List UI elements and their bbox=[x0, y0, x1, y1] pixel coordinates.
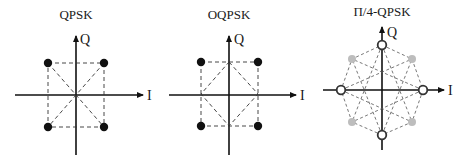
oqpsk-diagram: OQPSK I Q bbox=[169, 7, 305, 155]
oqpsk-q-label: Q bbox=[234, 32, 244, 47]
oqpsk-point-bottom-right bbox=[254, 122, 262, 130]
pi4-qpsk-point-bottom-right bbox=[408, 118, 416, 126]
qpsk-i-label: I bbox=[147, 88, 152, 103]
oqpsk-point-top-right bbox=[254, 58, 262, 66]
qpsk-point-top-right bbox=[100, 59, 108, 67]
qpsk-point-top-left bbox=[44, 59, 52, 67]
pi4-qpsk-i-label: I bbox=[448, 83, 453, 98]
pi4-qpsk-point-left bbox=[337, 86, 346, 95]
pi4-qpsk-diagram: Π/4-QPSK I Q bbox=[323, 4, 453, 150]
pi4-qpsk-title: Π/4-QPSK bbox=[353, 4, 411, 19]
qpsk-point-bottom-right bbox=[100, 123, 108, 131]
qpsk-title: QPSK bbox=[59, 7, 93, 22]
oqpsk-i-label: I bbox=[300, 88, 305, 103]
pi4-qpsk-point-bottom-left bbox=[348, 118, 356, 126]
oqpsk-point-top-left bbox=[197, 58, 205, 66]
pi4-qpsk-point-top-right bbox=[408, 55, 416, 63]
qpsk-point-bottom-left bbox=[44, 123, 52, 131]
modulation-constellations: QPSK I Q OQPSK I Q Π/4-QPSK I Q bbox=[0, 0, 470, 159]
pi4-qpsk-point-right bbox=[419, 86, 428, 95]
pi4-qpsk-point-top bbox=[378, 41, 387, 50]
oqpsk-title: OQPSK bbox=[208, 7, 251, 22]
oqpsk-point-bottom-left bbox=[197, 122, 205, 130]
qpsk-diagram: QPSK I Q bbox=[15, 7, 152, 155]
pi4-qpsk-point-bottom bbox=[378, 131, 387, 140]
pi4-qpsk-q-label: Q bbox=[387, 25, 397, 40]
pi4-qpsk-point-top-left bbox=[348, 55, 356, 63]
qpsk-q-label: Q bbox=[80, 32, 90, 47]
